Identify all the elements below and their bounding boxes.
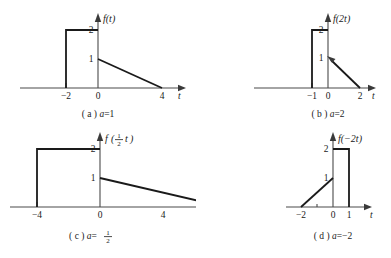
x-ticklabel-a-0: −2 <box>61 91 71 101</box>
x-ticklabel-b-1: 0 <box>326 91 331 101</box>
figure-signal-scaling: −2 0 4 2 1 t f(t) ( a ) a=1 <box>0 0 391 258</box>
function-label-c-prefix: f <box>105 133 109 144</box>
x-ticklabel-a-1: 0 <box>96 91 101 101</box>
y-axis-arrowhead <box>325 13 331 22</box>
caption-d-prefix: ( d ) <box>314 231 330 242</box>
y-ticklabel-c-1: 1 <box>91 173 96 183</box>
series-pulse-d <box>333 149 349 207</box>
x-ticklabel-c-1: 0 <box>98 210 103 220</box>
y-ticklabel-c-2: 2 <box>91 144 96 154</box>
chart-svg-b: −1 0 2 2 1 t f(2t) ( b ) a=2 <box>196 0 391 129</box>
y-ticklabel-d-2: 2 <box>324 144 329 154</box>
x-ticklabel-b-0: −1 <box>307 91 317 101</box>
caption-b-prefix: ( b ) <box>311 109 327 120</box>
x-axis-label-b: t <box>372 91 375 101</box>
caption-a: ( a ) a=1 <box>82 109 115 120</box>
function-label-b: f(2t) <box>333 13 351 25</box>
function-label-c-numerator: 1 <box>117 132 121 140</box>
caption-a-value: 1 <box>110 109 115 119</box>
chart-panel-a: −2 0 4 2 1 t f(t) ( a ) a=1 <box>0 0 196 129</box>
caption-b: ( b ) a=2 <box>311 109 344 120</box>
caption-b-value: 2 <box>340 109 345 119</box>
caption-c-equals: = <box>92 231 97 241</box>
x-ticklabel-d-2: 1 <box>347 210 352 220</box>
series-ramp-down-b <box>331 60 360 88</box>
chart-panel-c: −4 0 4 8 2 1 t f ( 1 2 t ) ( c ) a= <box>0 129 196 258</box>
function-label-a: f(t) <box>103 13 116 25</box>
caption-c-prefix: ( c ) <box>69 231 84 242</box>
y-axis-arrowhead <box>95 13 101 22</box>
x-ticklabel-a-2: 4 <box>160 91 165 101</box>
chart-panel-b: −1 0 2 2 1 t f(2t) ( b ) a=2 <box>196 0 391 129</box>
y-ticklabel-b-1: 1 <box>319 53 324 63</box>
caption-a-prefix: ( a ) <box>82 109 97 120</box>
series-ramp-down-c <box>100 178 196 207</box>
function-label-d: f(−2t) <box>338 133 363 145</box>
function-label-c: f ( 1 2 t ) <box>105 132 134 148</box>
x-axis-label-d: t <box>370 210 373 220</box>
chart-svg-c: −4 0 4 8 2 1 t f ( 1 2 t ) ( c ) a= <box>0 129 196 258</box>
x-ticklabel-c-0: −4 <box>32 210 42 220</box>
caption-d-value: −2 <box>342 231 352 241</box>
series-ramp-down-a <box>98 59 162 88</box>
caption-c-denominator: 2 <box>106 237 110 245</box>
chart-svg-d: −2 0 1 2 1 t f(−2t) ( d ) a=−2 <box>196 129 391 258</box>
y-ticklabel-d-1: 1 <box>324 173 329 183</box>
y-ticklabel-a-2: 2 <box>89 25 94 35</box>
chart-panel-d: −2 0 1 2 1 t f(−2t) ( d ) a=−2 <box>196 129 391 258</box>
caption-c-numerator: 1 <box>106 229 110 237</box>
x-ticklabel-d-0: −2 <box>296 210 306 220</box>
x-ticklabel-c-2: 4 <box>161 210 166 220</box>
x-ticklabel-d-1: 0 <box>331 210 336 220</box>
caption-c: ( c ) a= 1 2 <box>69 229 112 245</box>
y-ticklabel-a-1: 1 <box>89 54 94 64</box>
function-label-c-denominator: 2 <box>117 140 121 148</box>
function-label-c-paren-close: ) <box>129 133 134 145</box>
x-ticklabel-b-2: 2 <box>358 91 363 101</box>
y-axis-arrowhead <box>330 132 336 141</box>
x-axis-label-a: t <box>178 91 181 101</box>
function-label-c-paren-open: ( <box>111 133 115 145</box>
y-axis-arrowhead <box>97 132 103 141</box>
y-ticklabel-b-2: 2 <box>319 25 324 35</box>
function-label-c-variable: t <box>125 133 128 144</box>
caption-d: ( d ) a=−2 <box>314 231 353 242</box>
chart-svg-a: −2 0 4 2 1 t f(t) ( a ) a=1 <box>0 0 196 129</box>
caption-c-text: ( c ) a= <box>69 231 97 242</box>
